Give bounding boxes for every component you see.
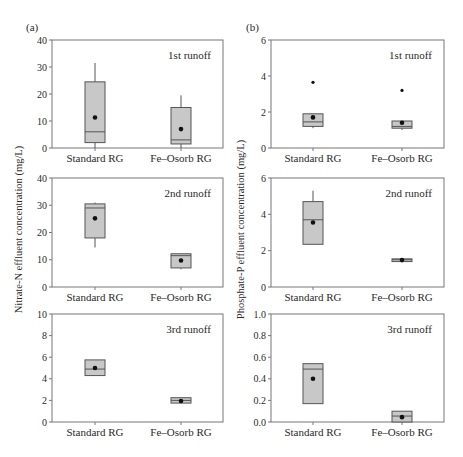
outlier-dot <box>400 89 403 92</box>
y-tick-label: 40 <box>37 173 47 184</box>
y-tick-label: 0 <box>42 282 47 293</box>
y-tick-label: 1.0 <box>254 309 267 320</box>
y-tick-label: 6 <box>42 352 47 363</box>
mean-dot <box>93 216 98 221</box>
x-tick-label: Fe–Osorb RG <box>150 152 211 164</box>
y-tick-label: 10 <box>37 309 47 320</box>
y-tick-label: 6 <box>261 173 266 184</box>
y-tick-label: 0.4 <box>254 373 267 384</box>
x-tick-label: Standard RG <box>284 291 341 303</box>
runoff-title: 1st runoff <box>389 49 432 61</box>
box-iqr <box>85 82 105 143</box>
y-tick-label: 0 <box>261 143 266 154</box>
y-tick-label: 0 <box>42 417 47 428</box>
runoff-title: 2nd runoff <box>385 187 432 199</box>
runoff-title: 3rd runoff <box>166 323 211 335</box>
mean-dot <box>400 415 405 420</box>
mean-dot <box>311 377 316 382</box>
y-tick-label: 6 <box>261 35 266 46</box>
boxplot-figure: (a) (b) Nitrate-N effluent concentration… <box>0 0 463 457</box>
x-tick-label: Standard RG <box>66 291 123 303</box>
y-tick-label: 0 <box>42 143 47 154</box>
mean-dot <box>179 127 184 132</box>
y-tick-label: 2 <box>261 245 266 256</box>
y-tick-label: 30 <box>37 62 47 73</box>
x-tick-label: Standard RG <box>284 152 341 164</box>
x-tick-label: Standard RG <box>66 426 123 438</box>
mean-dot <box>179 399 184 404</box>
y-tick-label: 10 <box>37 116 47 127</box>
y-tick-label: 20 <box>37 227 47 238</box>
runoff-title: 2nd runoff <box>164 187 211 199</box>
mean-dot <box>179 258 184 263</box>
outlier-dot <box>311 81 314 84</box>
y-tick-label: 2 <box>261 107 266 118</box>
x-tick-label: Fe–Osorb RG <box>371 152 432 164</box>
mean-dot <box>311 115 316 120</box>
y-tick-label: 4 <box>42 373 47 384</box>
y-tick-label: 0.8 <box>254 330 267 341</box>
y-tick-label: 40 <box>37 35 47 46</box>
y-tick-label: 0 <box>261 282 266 293</box>
y-tick-label: 4 <box>261 209 266 220</box>
runoff-title: 3rd runoff <box>387 323 432 335</box>
mean-dot <box>400 258 405 263</box>
y-tick-label: 0.6 <box>254 352 267 363</box>
box-iqr <box>171 108 191 144</box>
x-tick-label: Standard RG <box>284 426 341 438</box>
x-tick-label: Fe–Osorb RG <box>150 426 211 438</box>
y-tick-label: 10 <box>37 254 47 265</box>
y-tick-label: 4 <box>261 71 266 82</box>
mean-dot <box>93 366 98 371</box>
y-tick-label: 30 <box>37 200 47 211</box>
y-tick-label: 2 <box>42 395 47 406</box>
mean-dot <box>400 121 405 126</box>
box-iqr <box>85 204 105 238</box>
runoff-title: 1st runoff <box>168 49 211 61</box>
box-iqr <box>303 364 323 404</box>
y-tick-label: 0.0 <box>254 417 267 428</box>
mean-dot <box>93 115 98 120</box>
x-tick-label: Fe–Osorb RG <box>371 291 432 303</box>
x-tick-label: Standard RG <box>66 152 123 164</box>
y-tick-label: 20 <box>37 89 47 100</box>
y-tick-label: 8 <box>42 330 47 341</box>
x-tick-label: Fe–Osorb RG <box>371 426 432 438</box>
y-tick-label: 0.2 <box>254 395 267 406</box>
plot-area: 010203040Standard RGFe–Osorb RG1st runof… <box>0 0 463 457</box>
mean-dot <box>311 220 316 225</box>
x-tick-label: Fe–Osorb RG <box>150 291 211 303</box>
